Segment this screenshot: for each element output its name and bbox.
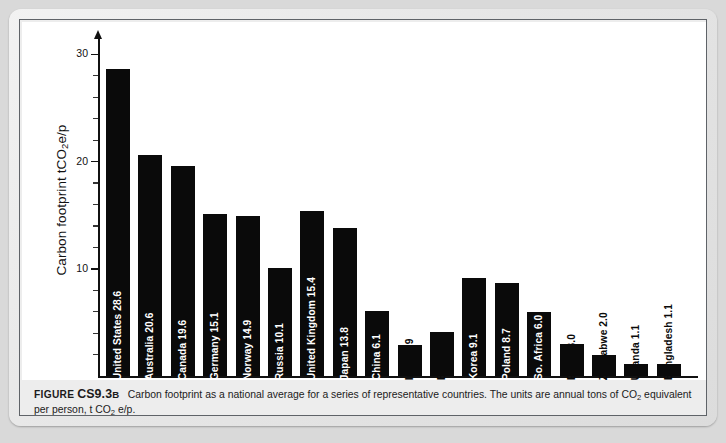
bar-label: United Kingdom 15.4 <box>307 277 317 380</box>
bar-label: Russia 10.1 <box>275 323 285 380</box>
y-axis-minor-tick <box>93 97 98 98</box>
y-axis-minor-tick <box>93 204 98 205</box>
y-axis-title-suffix: e/p <box>54 125 69 144</box>
y-axis-line <box>98 38 100 378</box>
bar-label: Japan 13.8 <box>340 327 350 380</box>
y-axis-minor-tick <box>93 333 98 334</box>
y-axis-minor-tick <box>93 75 98 76</box>
figure-number: CS9.3 <box>77 387 112 401</box>
bar-label: Egypt 3.0 <box>566 334 576 380</box>
figure-inner-frame: 102030 Carbon footprint tCO2e/p United S… <box>19 19 707 416</box>
bar-label: Poland 8.7 <box>502 328 512 380</box>
bar-label: Brazil 4.1 <box>437 334 447 380</box>
figure-caption-band: FIGURE CS9.3B Carbon footprint as a nati… <box>22 382 706 415</box>
caption-part-3: e/p. <box>115 404 135 415</box>
bar-label: China 6.1 <box>372 334 382 380</box>
bar-label: Norway 14.9 <box>242 320 252 381</box>
y-axis-minor-tick <box>93 182 98 183</box>
bar-label: Canada 19.6 <box>178 320 188 381</box>
y-axis-major-tick <box>91 161 98 163</box>
bar-label: United States 28.6 <box>113 291 123 381</box>
y-axis-title-prefix: Carbon footprint tCO <box>54 149 69 276</box>
bar-label: India 2.9 <box>404 339 414 381</box>
y-axis-minor-tick <box>93 247 98 248</box>
figure-letter: B <box>112 389 119 400</box>
figure-caption-body: Carbon footprint as a national average f… <box>34 389 691 415</box>
y-axis-title-subscript: 2 <box>59 144 70 149</box>
figure-label-word: FIGURE <box>34 389 74 400</box>
y-axis-minor-tick <box>93 140 98 141</box>
chart-panel: 102030 Carbon footprint tCO2e/p United S… <box>22 22 706 380</box>
y-axis-minor-tick <box>93 118 98 119</box>
y-axis-tick-label-wrap: 30 <box>58 48 88 59</box>
y-axis-major-tick <box>91 268 98 270</box>
figure-plate: 102030 Carbon footprint tCO2e/p United S… <box>9 9 717 426</box>
plot-area: 102030 Carbon footprint tCO2e/p United S… <box>22 22 706 380</box>
y-axis-minor-tick <box>93 354 98 355</box>
bar-label: So. Africa 6.0 <box>534 315 544 381</box>
y-axis-title: Carbon footprint tCO2e/p <box>54 85 70 315</box>
y-axis-minor-tick <box>93 225 98 226</box>
figure-caption: FIGURE CS9.3B Carbon footprint as a nati… <box>34 386 696 417</box>
bar-label: Bangladesh 1.1 <box>664 304 674 380</box>
y-axis-minor-tick <box>93 311 98 312</box>
caption-part-1: Carbon footprint as a national average f… <box>128 389 637 400</box>
y-axis-tick-label: 30 <box>66 48 88 59</box>
bar-label: Australia 20.6 <box>145 313 155 381</box>
y-axis-minor-tick <box>93 290 98 291</box>
bar-label: Uganda 1.1 <box>631 325 641 380</box>
bar-label: Korea 9.1 <box>469 333 479 380</box>
y-axis-major-tick <box>91 54 98 56</box>
bar-label: Germany 15.1 <box>210 312 220 380</box>
bar-label: Zimbabwe 2.0 <box>599 312 609 380</box>
